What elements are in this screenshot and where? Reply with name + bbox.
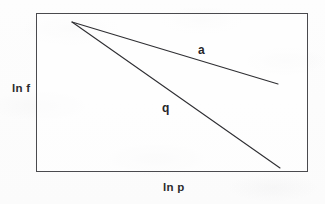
curve-label-a: a	[198, 43, 205, 57]
line-series-q	[72, 22, 280, 168]
curve-label-q: q	[162, 101, 169, 115]
line-series-a	[72, 22, 278, 84]
y-axis-label: ln f	[12, 82, 30, 94]
figure-canvas: a q ln f ln p	[0, 0, 325, 204]
x-axis-label: ln p	[163, 181, 185, 193]
